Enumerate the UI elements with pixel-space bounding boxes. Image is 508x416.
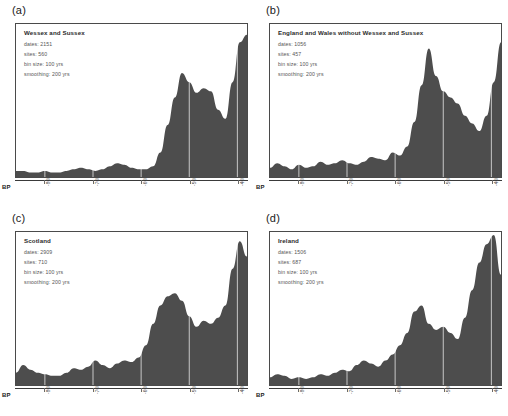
axis-tick-label: -8000 [46, 381, 51, 394]
axis-tick [347, 180, 348, 184]
axis-tick [298, 388, 299, 392]
panel-a: (a) Wessex and Sussex dates: 2151 sites:… [0, 0, 254, 208]
axis-tick-label: -7000 [349, 173, 354, 186]
axis-tick-label: -7000 [95, 173, 100, 186]
axis-tick [93, 180, 94, 184]
axis-tick-label: -8000 [300, 381, 305, 394]
axis-label-d: BP [256, 392, 265, 398]
plot-area-a: Wessex and Sussex dates: 2151 sites: 560… [15, 23, 248, 178]
spd-curve-d [270, 232, 501, 385]
axis-tick-label: -5000 [446, 381, 451, 394]
axis-tick-label: -4000 [240, 381, 245, 394]
axis-tick-label: -6000 [143, 381, 148, 394]
axis-tick-label: -4000 [240, 173, 245, 186]
axis-tick-label: -7000 [95, 381, 100, 394]
panel-letter-c: (c) [12, 212, 25, 224]
axis-tick [190, 180, 191, 184]
axis-tick [347, 388, 348, 392]
axis-label-a: BP [2, 184, 11, 190]
axis-tick [190, 388, 191, 392]
axis-label-c: BP [2, 392, 11, 398]
panel-letter-a: (a) [12, 4, 26, 16]
axis-tick [298, 180, 299, 184]
spd-curve-a [16, 24, 247, 177]
axis-tick-label: -6000 [397, 381, 402, 394]
x-axis-c: BP -8000-7000-6000-5000-4000 [15, 388, 248, 416]
axis-tick-label: -8000 [46, 173, 51, 186]
plot-area-d: Ireland dates: 1506 sites: 687 bin size:… [269, 231, 502, 386]
figure-spd-panels: (a) Wessex and Sussex dates: 2151 sites:… [0, 0, 508, 416]
axis-tick-label: -4000 [494, 381, 499, 394]
axis-label-b: BP [256, 184, 265, 190]
axis-tick [44, 388, 45, 392]
axis-tick-label: -8000 [300, 173, 305, 186]
panel-b: (b) England and Wales without Wessex and… [254, 0, 508, 208]
plot-area-c: Scotland dates: 2909 sites: 710 bin size… [15, 231, 248, 386]
panel-d: (d) Ireland dates: 1506 sites: 687 bin s… [254, 208, 508, 416]
axis-tick [444, 180, 445, 184]
axis-tick-label: -5000 [192, 381, 197, 394]
spd-curve-b [270, 24, 501, 177]
panel-letter-b: (b) [266, 4, 280, 16]
plot-area-b: England and Wales without Wessex and Sus… [269, 23, 502, 178]
axis-tick-label: -5000 [446, 173, 451, 186]
panel-c: (c) Scotland dates: 2909 sites: 710 bin … [0, 208, 254, 416]
axis-tick [44, 180, 45, 184]
x-axis-b: BP -8000-7000-6000-5000-4000 [269, 180, 502, 208]
x-axis-a: BP -8000-7000-6000-5000-4000 [15, 180, 248, 208]
axis-tick [444, 388, 445, 392]
spd-curve-c [16, 232, 247, 385]
axis-tick [93, 388, 94, 392]
axis-tick-label: -6000 [143, 173, 148, 186]
axis-tick-label: -4000 [494, 173, 499, 186]
axis-tick-label: -7000 [349, 381, 354, 394]
x-axis-d: BP -8000-7000-6000-5000-4000 [269, 388, 502, 416]
axis-tick-label: -6000 [397, 173, 402, 186]
axis-tick-label: -5000 [192, 173, 197, 186]
panel-letter-d: (d) [266, 212, 280, 224]
